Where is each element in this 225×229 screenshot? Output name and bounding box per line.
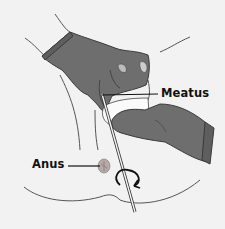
meatus-label: Meatus [161,86,209,100]
catheter-insertion-illustration [0,0,225,229]
anus-label: Anus [32,157,65,171]
right-gloved-hand [112,104,214,164]
